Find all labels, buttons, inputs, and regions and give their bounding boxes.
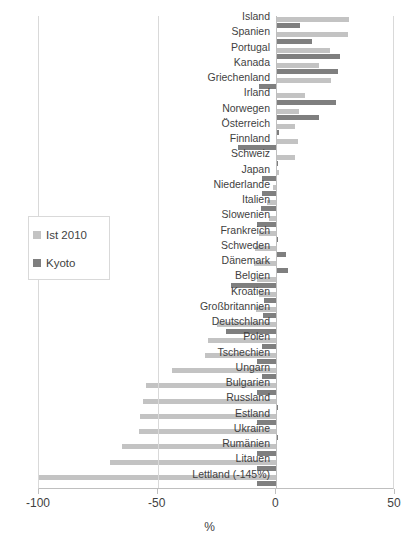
category-label: Griechenland bbox=[208, 72, 270, 83]
category-label: Island bbox=[242, 11, 270, 22]
category-label: Frankreich bbox=[220, 225, 270, 236]
category-label: Slowenien bbox=[222, 209, 270, 220]
category-label: Bulgarien bbox=[226, 377, 270, 388]
x-tick-label: 0 bbox=[272, 496, 279, 510]
x-tick-mark bbox=[157, 489, 158, 494]
legend-swatch-ist-2010 bbox=[33, 231, 41, 239]
category-label: Österreich bbox=[222, 118, 270, 129]
category-label: Tschechien bbox=[217, 347, 270, 358]
category-label: Rumänien bbox=[222, 438, 270, 449]
category-label: Ukraine bbox=[234, 423, 270, 434]
category-label: Italien bbox=[242, 194, 270, 205]
legend-item-ist-2010: Ist 2010 bbox=[33, 229, 87, 241]
category-label: Schweden bbox=[221, 240, 270, 251]
category-label: Norwegen bbox=[222, 103, 270, 114]
category-label: Lettland (-145%) bbox=[192, 469, 270, 480]
x-tick-mark bbox=[394, 489, 395, 494]
category-label: Dänemark bbox=[222, 255, 270, 266]
legend-label-kyoto: Kyoto bbox=[46, 257, 75, 269]
category-label: Deutschland bbox=[212, 316, 270, 327]
category-label: Litauen bbox=[236, 453, 270, 464]
legend-item-kyoto: Kyoto bbox=[33, 257, 75, 269]
x-tick-label: -100 bbox=[26, 496, 50, 510]
category-label: Spanien bbox=[231, 26, 270, 37]
category-label: Ungarn bbox=[236, 362, 270, 373]
category-label: Kroatien bbox=[231, 286, 270, 297]
category-label: Kanada bbox=[234, 57, 270, 68]
chart-legend: Ist 2010 Kyoto bbox=[28, 216, 110, 280]
legend-swatch-kyoto bbox=[33, 259, 41, 267]
x-tick-label: 50 bbox=[387, 496, 400, 510]
category-label: Irland bbox=[244, 87, 270, 98]
x-axis: -100-50050 bbox=[0, 494, 419, 516]
x-tick-label: -50 bbox=[148, 496, 165, 510]
category-label: Belgien bbox=[235, 270, 270, 281]
category-label: Finnland bbox=[230, 133, 270, 144]
category-label: Großbritannien bbox=[200, 301, 270, 312]
x-tick-mark bbox=[38, 489, 39, 494]
legend-label-ist-2010: Ist 2010 bbox=[46, 229, 87, 241]
category-label: Estland bbox=[235, 408, 270, 419]
x-tick-mark bbox=[275, 489, 276, 494]
x-axis-title: % bbox=[0, 520, 419, 534]
category-label: Polen bbox=[243, 331, 270, 342]
category-label: Niederlande bbox=[213, 179, 270, 190]
category-label: Russland bbox=[226, 392, 270, 403]
category-label: Portugal bbox=[231, 42, 270, 53]
category-label: Japan bbox=[241, 164, 270, 175]
category-label: Schweiz bbox=[231, 148, 270, 159]
bar-chart: IslandSpanienPortugalKanadaGriechenlandI… bbox=[0, 0, 419, 556]
